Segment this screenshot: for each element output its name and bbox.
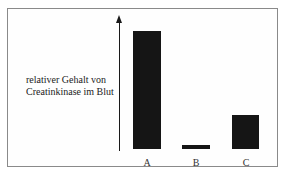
y-axis-label-line-1: relativer Gehalt von xyxy=(26,74,114,86)
x-tick-label-b: B xyxy=(182,157,210,168)
y-axis-label-line-2: Creatinkinase im Blut xyxy=(26,86,114,98)
x-tick-label-c: C xyxy=(232,157,260,168)
y-axis-label: relativer Gehalt von Creatinkinase im Bl… xyxy=(26,74,114,98)
bar-c xyxy=(232,115,259,149)
y-axis-arrow-icon xyxy=(116,15,122,23)
x-tick-label-a: A xyxy=(133,157,161,168)
bar-b xyxy=(182,145,210,149)
bar-a xyxy=(133,31,161,149)
y-axis-line xyxy=(119,20,120,151)
